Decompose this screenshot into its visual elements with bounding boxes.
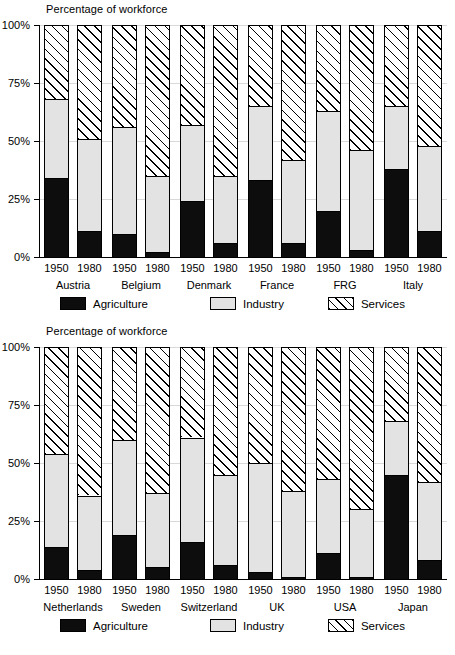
bar-segment-agriculture — [214, 565, 237, 579]
bar-segment-industry — [214, 176, 237, 243]
legend-item-services[interactable]: Services — [328, 297, 405, 310]
stacked-bar — [349, 25, 374, 258]
x-axis-year-label: 1950 — [242, 262, 279, 274]
x-axis-country-label: Japan — [370, 601, 455, 613]
bar-segment-agriculture — [418, 231, 441, 257]
bar-segment-services — [317, 347, 340, 479]
bar-segment-services — [385, 347, 408, 421]
bar-segment-agriculture — [317, 553, 340, 579]
bar-segment-industry — [385, 421, 408, 474]
bar-segment-agriculture — [45, 178, 68, 257]
stacked-bar — [145, 347, 170, 580]
stacked-bar — [44, 25, 69, 258]
x-axis-year-label: 1980 — [343, 584, 380, 596]
legend-label: Industry — [243, 298, 284, 310]
legend-swatch-services — [328, 619, 354, 632]
x-axis-year-label: 1980 — [139, 584, 176, 596]
x-axis-year-label: 1950 — [106, 262, 143, 274]
y-axis-label: 50% — [0, 457, 30, 469]
y-axis-label: 75% — [0, 77, 30, 89]
bar-segment-industry — [317, 111, 340, 211]
bar-segment-services — [350, 347, 373, 509]
y-axis-label: 25% — [0, 515, 30, 527]
x-axis-year-label: 1950 — [106, 584, 143, 596]
bar-segment-agriculture — [181, 542, 204, 579]
legend-label: Services — [361, 620, 405, 632]
bar-segment-services — [146, 25, 169, 176]
bar-segment-industry — [385, 106, 408, 169]
x-axis-year-label: 1980 — [343, 262, 380, 274]
stacked-bar — [180, 347, 205, 580]
bar-segment-industry — [214, 475, 237, 565]
bar-segment-industry — [317, 479, 340, 553]
legend-swatch-agriculture — [60, 619, 86, 632]
bar-segment-agriculture — [350, 577, 373, 579]
stacked-bar — [145, 25, 170, 258]
stacked-bar — [248, 347, 273, 580]
bar-segment-services — [282, 25, 305, 160]
bar-segment-industry — [45, 99, 68, 178]
legend-item-agriculture[interactable]: Agriculture — [60, 297, 148, 310]
y-axis-label: 100% — [0, 341, 30, 353]
legend-label: Services — [361, 298, 405, 310]
y-axis-label: 75% — [0, 399, 30, 411]
bar-segment-agriculture — [350, 250, 373, 257]
bar-segment-services — [78, 347, 101, 495]
stacked-bar — [112, 25, 137, 258]
bar-segment-services — [249, 347, 272, 463]
bar-segment-industry — [78, 496, 101, 570]
bar-segment-agriculture — [78, 570, 101, 579]
stacked-bar — [281, 25, 306, 258]
x-axis-year-label: 1980 — [71, 262, 108, 274]
bar-segment-agriculture — [146, 567, 169, 579]
x-axis-year-label: 1950 — [310, 584, 347, 596]
bar-segment-agriculture — [146, 252, 169, 257]
bar-segment-services — [45, 25, 68, 99]
stacked-bar — [384, 347, 409, 580]
bar-segment-agriculture — [78, 231, 101, 257]
legend-swatch-agriculture — [60, 297, 86, 310]
bar-segment-industry — [282, 160, 305, 244]
bar-segment-industry — [113, 127, 136, 234]
chart-legend: AgricultureIndustryServices — [60, 297, 405, 310]
legend-swatch-services — [328, 297, 354, 310]
legend-item-industry[interactable]: Industry — [210, 297, 284, 310]
y-axis-label: 0% — [0, 251, 30, 263]
bar-segment-agriculture — [113, 234, 136, 257]
bar-segment-services — [181, 25, 204, 125]
bar-segment-services — [317, 25, 340, 111]
x-axis-year-label: 1950 — [242, 584, 279, 596]
bar-segment-industry — [350, 150, 373, 250]
y-axis-label: 25% — [0, 193, 30, 205]
bar-segment-services — [113, 347, 136, 440]
bar-segment-agriculture — [317, 211, 340, 257]
x-axis-year-label: 1980 — [275, 262, 312, 274]
bar-segment-industry — [418, 482, 441, 561]
legend-item-services[interactable]: Services — [328, 619, 405, 632]
bar-segment-agriculture — [418, 560, 441, 579]
x-axis-year-label: 1950 — [174, 584, 211, 596]
x-axis-year-label: 1950 — [378, 262, 415, 274]
legend-item-agriculture[interactable]: Agriculture — [60, 619, 148, 632]
bar-segment-industry — [146, 493, 169, 567]
bar-segment-industry — [249, 463, 272, 572]
stacked-bar — [248, 25, 273, 258]
stacked-bar — [417, 25, 442, 258]
stacked-bar — [44, 347, 69, 580]
bar-segment-services — [214, 25, 237, 176]
x-axis-year-label: 1980 — [207, 262, 244, 274]
bar-segment-services — [78, 25, 101, 139]
bar-segment-agriculture — [113, 535, 136, 579]
y-axis-label: 0% — [0, 573, 30, 585]
legend-swatch-industry — [210, 619, 236, 632]
stacked-bar — [281, 347, 306, 580]
stacked-bar — [180, 25, 205, 258]
bar-segment-agriculture — [45, 547, 68, 579]
legend-item-industry[interactable]: Industry — [210, 619, 284, 632]
stacked-bar — [77, 347, 102, 580]
bar-segment-services — [249, 25, 272, 106]
bar-segment-services — [181, 347, 204, 437]
bar-segment-industry — [181, 438, 204, 542]
stacked-bar — [349, 347, 374, 580]
legend-swatch-industry — [210, 297, 236, 310]
